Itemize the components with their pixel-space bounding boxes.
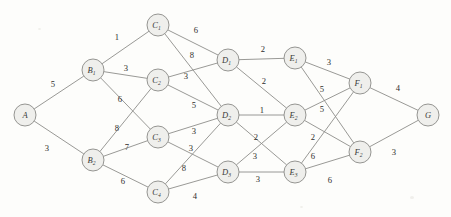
graph-node[interactable]: D3 [217, 161, 239, 183]
edge-weight-label: 6 [311, 151, 316, 161]
edge-weight-label: 4 [193, 191, 198, 201]
edge-weight-label: 2 [262, 76, 266, 86]
graph-node[interactable]: E2 [284, 104, 306, 126]
graph-edge [169, 63, 218, 77]
graph-canvas: 531368766835338422123335526643 AB1B2C1C2… [0, 0, 451, 217]
edge-weight-label: 3 [45, 143, 49, 153]
edge-weight-label: 8 [190, 50, 194, 60]
edge-weight-label: 3 [124, 63, 128, 73]
graph-edge [239, 58, 284, 59]
graph-edge [301, 67, 353, 143]
graph-edge [237, 67, 287, 108]
graph-edge [101, 78, 151, 129]
edge-weight-label: 3 [253, 151, 257, 161]
edge-weight-label: 3 [256, 174, 260, 184]
edge-weight-label: 3 [392, 147, 396, 157]
node-label: A [21, 110, 28, 120]
graph-edge [169, 175, 218, 189]
graph-edge [102, 31, 149, 63]
graph-edge [301, 92, 353, 163]
edge-weight-label: 3 [184, 71, 188, 81]
edge-weight-label: 5 [320, 84, 324, 94]
graph-node[interactable]: A [14, 104, 36, 126]
edge-weight-label: 6 [121, 176, 126, 186]
paper-speck [300, 206, 303, 208]
edge-weight-label: 3 [189, 143, 193, 153]
graph-node[interactable]: C4 [147, 181, 169, 203]
graph-node[interactable]: C1 [147, 14, 169, 36]
graph-node[interactable]: E3 [284, 161, 306, 183]
edge-weight-label: 1 [115, 32, 119, 42]
graph-node[interactable]: B1 [82, 59, 104, 81]
edge-weight-label: 4 [396, 83, 401, 93]
graph-node[interactable]: G [417, 104, 439, 126]
edge-weight-label: 5 [192, 100, 196, 110]
graph-edge [305, 88, 350, 110]
edge-weight-label: 7 [125, 142, 130, 152]
graph-node[interactable]: B2 [82, 149, 104, 171]
edge-weight-label: 3 [192, 126, 196, 136]
graph-node[interactable]: D1 [217, 49, 239, 71]
edge-weight-label: 6 [194, 25, 199, 35]
graph-node[interactable]: C2 [147, 69, 169, 91]
node-label: G [425, 110, 431, 120]
graph-edge [34, 76, 84, 109]
graph-node[interactable]: E1 [284, 47, 306, 69]
edge-weight-label: 5 [320, 104, 324, 114]
graph-edge [103, 165, 148, 187]
paper-speck [410, 196, 414, 199]
nodes-group: AB1B2C1C2C3C4D1D2D3E1E2E3F1F2G [14, 14, 439, 203]
edge-weight-label: 6 [118, 94, 123, 104]
edge-weight-label: 2 [254, 132, 258, 142]
graph-node[interactable]: F1 [349, 72, 371, 94]
edge-weight-label: 2 [311, 132, 315, 142]
graph-edge [370, 88, 418, 111]
edge-weight-label: 3 [327, 57, 331, 67]
graph-node[interactable]: D2 [217, 104, 239, 126]
edge-weight-label: 6 [328, 175, 333, 185]
edge-weight-label: 5 [51, 79, 55, 89]
graph-edge [370, 120, 419, 146]
edge-weight-label: 8 [182, 163, 186, 173]
paper-speck [38, 28, 41, 30]
graph-figure: 531368766835338422123335526643 AB1B2C1C2… [0, 0, 451, 217]
graph-node[interactable]: C3 [147, 126, 169, 148]
edge-weight-label: 2 [261, 44, 265, 54]
edge-weight-label: 8 [115, 123, 119, 133]
edge-weight-label: 1 [260, 105, 264, 115]
graph-edge [34, 121, 84, 154]
graph-node[interactable]: F2 [349, 141, 371, 163]
